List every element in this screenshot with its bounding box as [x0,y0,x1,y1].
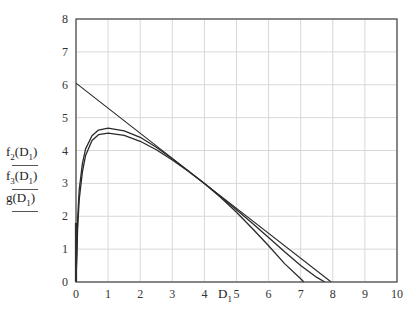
x-tick-label: 10 [391,287,403,301]
y-label-f2: f2(D1) [6,144,37,162]
y-label-legend-rule [12,165,38,166]
y-label-close: ) [33,144,37,159]
y-label-f3: f3(D1) [6,168,37,186]
y-tick-label: 7 [62,45,68,59]
x-tick-labels: 012345678910 [73,287,403,301]
y-tick-label: 6 [62,78,68,92]
grid [76,19,397,282]
y-tick-label: 8 [62,12,68,26]
x-tick-label: 1 [105,287,111,301]
y-tick-label: 4 [62,144,68,158]
x-tick-label: 5 [234,287,240,301]
chart: 012345678910 012345678 [0,0,416,326]
x-tick-label: 7 [298,287,304,301]
y-tick-label: 3 [62,176,68,190]
y-label-legend-rule [12,211,38,212]
x-axis-label-sub: 1 [227,294,232,304]
x-tick-label: 0 [73,287,79,301]
y-label-arg: (D [15,168,29,183]
y-tick-label: 1 [62,242,68,256]
x-tick-label: 8 [330,287,336,301]
y-label-arg: (D [15,144,29,159]
y-tick-label: 2 [62,209,68,223]
x-tick-label: 6 [266,287,272,301]
x-tick-label: 3 [169,287,175,301]
x-tick-label: 4 [201,287,207,301]
y-label-close: ) [33,168,37,183]
series-line-f2d1 [76,128,304,282]
x-tick-label: 2 [137,287,143,301]
y-tick-label: 5 [62,111,68,125]
series-line-gd1 [76,133,325,282]
y-label-close: ) [31,190,35,205]
x-tick-label: 9 [362,287,368,301]
clipped-footer-text [14,320,394,326]
y-tick-labels: 012345678 [62,12,68,289]
y-tick-label: 0 [62,275,68,289]
y-label-g: g(D1) [6,190,35,208]
x-axis-label-text: D [218,286,227,301]
y-label-arg: (D [13,190,27,205]
series-group [76,83,331,282]
x-axis-label: D1 [218,286,232,304]
